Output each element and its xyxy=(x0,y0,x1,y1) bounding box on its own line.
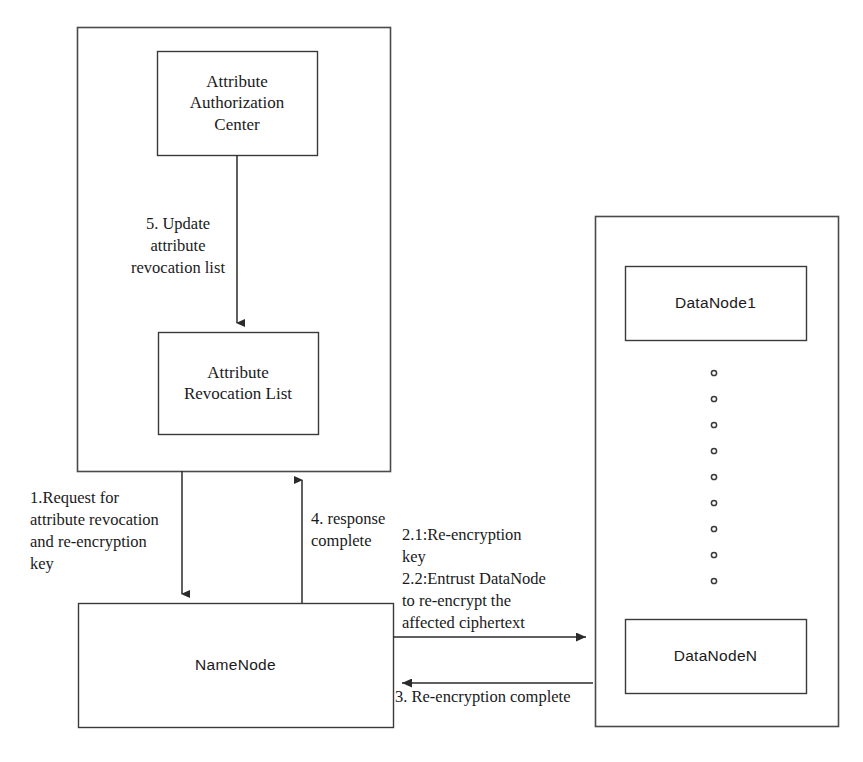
datanode-n-box[interactable] xyxy=(626,620,807,694)
namenode-box[interactable] xyxy=(79,604,394,728)
edge-label-request-revocation: 1.Request for attribute revocation and r… xyxy=(30,487,185,575)
edge-label-reencryption-complete: 3. Re-encryption complete xyxy=(395,686,625,708)
attribute-revocation-list-box[interactable] xyxy=(159,333,319,435)
edge-label-update-revocation-list: 5. Update attribute revocation list xyxy=(113,213,243,279)
datanode-ellipsis xyxy=(711,370,716,583)
datanode-1-box[interactable] xyxy=(626,267,807,341)
attribute-authorization-center-box[interactable] xyxy=(158,52,318,156)
edge-label-entrust-datanode: 2.1:Re-encryption key 2.2:Entrust DataNo… xyxy=(402,524,597,634)
diagram-vector-layer xyxy=(0,0,863,762)
diagram-canvas: Attribute Authorization Center Attribute… xyxy=(0,0,863,762)
